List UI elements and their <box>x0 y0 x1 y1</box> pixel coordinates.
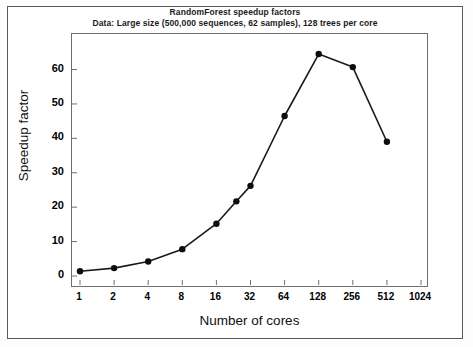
y-tick-label: 20 <box>38 199 64 211</box>
data-point <box>111 265 117 271</box>
x-tick-label: 1024 <box>400 291 440 302</box>
y-tick-label: 40 <box>38 130 64 142</box>
y-axis-title: Speedup factor <box>16 61 31 211</box>
y-tick-label: 10 <box>38 234 64 246</box>
speedup-line <box>80 54 387 271</box>
data-point <box>213 220 219 226</box>
y-axis-ticks <box>72 70 77 276</box>
data-point <box>247 183 253 189</box>
y-tick-label: 50 <box>38 96 64 108</box>
chart-subtitle: Data: Large size (500,000 sequences, 62 … <box>8 19 462 28</box>
x-axis-ticks <box>80 280 421 285</box>
title-block: RandomForest speedup factors Data: Large… <box>8 8 462 28</box>
plot-svg <box>72 34 427 286</box>
data-point <box>384 139 390 145</box>
y-tick-label: 0 <box>38 268 64 280</box>
data-point <box>350 64 356 70</box>
chart-title: RandomForest speedup factors <box>8 8 462 17</box>
y-tick-label: 30 <box>38 165 64 177</box>
plot-area <box>71 33 428 287</box>
x-axis-title: Number of cores <box>71 313 428 328</box>
data-point <box>233 198 239 204</box>
figure-canvas: RandomForest speedup factors Data: Large… <box>0 0 473 347</box>
data-point <box>281 113 287 119</box>
data-point <box>145 258 151 264</box>
y-tick-label: 60 <box>38 62 64 74</box>
data-point <box>77 268 83 274</box>
data-point <box>179 246 185 252</box>
data-point <box>316 51 322 57</box>
data-point-markers <box>77 51 390 275</box>
